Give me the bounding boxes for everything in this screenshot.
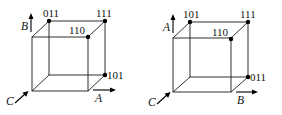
left-label-front-top-right: 110: [69, 24, 86, 36]
left-cube-edge-bottom-right: [88, 75, 105, 91]
right-cube-edge-bottom-right: [231, 77, 248, 92]
left-depth-axis-arrow: [15, 94, 25, 103]
right-vertex-dot-111: [246, 20, 250, 24]
left-label-back-bottom-right: 101: [107, 69, 124, 81]
left-horizontal-arrowhead-icon: [110, 88, 116, 93]
right-vertical-axis-label: A: [162, 21, 171, 33]
left-vertical-axis-label: B: [21, 20, 28, 32]
left-label-back-top-right: 111: [96, 7, 112, 19]
right-label-front-top-right: 110: [212, 26, 229, 38]
left-cube: 011 111 110 101 B A C: [6, 7, 124, 107]
right-depth-axis-label: C: [148, 96, 156, 108]
right-horizontal-arrowhead-icon: [252, 90, 258, 95]
right-cube-edge-bottom-left: [173, 77, 190, 92]
right-cube-edge-top-right: [231, 22, 248, 38]
right-vertex-dot-101: [188, 20, 192, 24]
right-cube-edge-top-left: [173, 22, 190, 38]
right-label-back-top-left: 101: [183, 8, 200, 20]
left-label-back-top-left: 011: [43, 7, 59, 19]
left-vertex-dot-011: [47, 19, 51, 23]
right-vertex-dot-110: [229, 37, 233, 41]
left-vertex-dot-111: [103, 19, 107, 23]
two-cube-diagram: 011 111 110 101 B A C 101 111: [0, 0, 282, 115]
right-label-back-bottom-right: 011: [250, 71, 266, 83]
left-cube-edge-top-left: [32, 21, 49, 37]
left-depth-axis-label: C: [6, 95, 14, 107]
right-vertical-arrowhead-icon: [171, 14, 176, 20]
left-cube-edge-bottom-left: [32, 75, 49, 91]
left-vertical-arrowhead-icon: [29, 13, 34, 19]
right-depth-axis-arrow: [157, 95, 167, 104]
right-cube: 101 111 110 011 A B C: [148, 8, 266, 108]
left-vertex-dot-110: [86, 35, 90, 39]
left-horizontal-axis-label: A: [94, 92, 103, 104]
right-label-back-top-right: 111: [240, 8, 256, 20]
left-cube-edge-top-right: [88, 21, 105, 37]
right-horizontal-axis-label: B: [237, 94, 244, 106]
